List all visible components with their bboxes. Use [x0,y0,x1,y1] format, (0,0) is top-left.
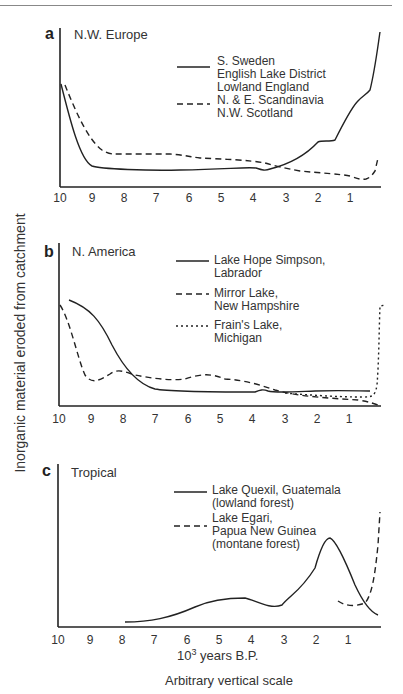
legend-b-1: Lake Hope Simpson, Labrador [214,254,325,280]
panel-b-letter: b [44,243,54,261]
legend-b-2: Mirror Lake, New Hampshire [214,287,299,313]
legend-a-2: N. & E. Scandinavia N.W. Scotland [217,94,324,120]
chart-canvas [0,0,403,694]
panel-a-title: N.W. Europe [74,27,148,42]
panel-c-letter: c [42,462,51,480]
panel-b-series [60,300,386,406]
footer-note: Arbitrary vertical scale [165,673,293,688]
legend-a-1: S. Sweden English Lake District Lowland … [217,55,326,94]
legend-c-1: Lake Quexil, Guatemala (lowland forest) [212,484,341,510]
panel-c-title: Tropical [71,465,117,480]
series-frains-lake [285,305,386,397]
x-axis-label: 103 years B.P. [177,647,258,663]
panel-a-letter: a [45,25,54,43]
series-hope-simpson [69,300,370,392]
legend-c-2: Lake Egari, Papua New Guinea (montane fo… [212,512,316,551]
legend-b-3: Frain's Lake, Michigan [214,319,282,345]
panel-b-title: N. America [72,244,136,259]
legend-samples [174,67,210,526]
